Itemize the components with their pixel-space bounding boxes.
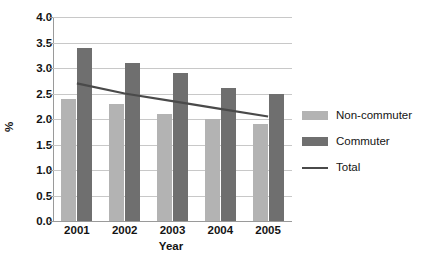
x-tick-label: 2001 [64,224,90,236]
legend-line-marker [302,163,328,172]
plot-area [53,17,292,222]
legend-color-swatch [302,111,328,120]
legend-label: Non-commuter [336,109,412,121]
x-tick-label: 2004 [208,224,234,236]
x-tick-label: 2003 [160,224,186,236]
total-line-series [53,17,292,222]
total-line-path [77,83,268,116]
x-tick-label: 2002 [112,224,138,236]
y-axis-label: % [3,122,15,132]
x-axis-label: Year [159,240,183,252]
bar-line-chart: 0.00.51.01.52.02.53.03.54.0 % 2001200220… [0,0,434,264]
legend-item[interactable]: Total [302,154,432,180]
legend-label: Total [336,161,360,173]
legend-label: Commuter [336,135,390,147]
legend-color-swatch [302,137,328,146]
legend-item[interactable]: Commuter [302,128,432,154]
y-axis-tick-labels: 0.00.51.01.52.02.53.03.54.0 [18,0,52,264]
chart-legend: Non-commuterCommuterTotal [302,102,432,180]
legend-item[interactable]: Non-commuter [302,102,432,128]
x-tick-label: 2005 [255,224,281,236]
